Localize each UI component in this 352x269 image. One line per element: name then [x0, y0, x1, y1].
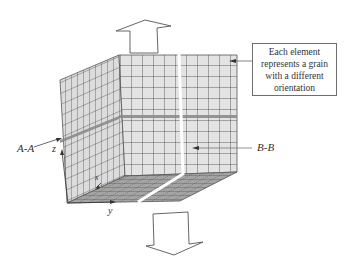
- callout-line-4: orientation: [253, 82, 336, 94]
- cube-diagram: [0, 0, 352, 269]
- axis-y-label: y: [108, 205, 112, 216]
- section-a-a-label: A-A: [17, 142, 34, 154]
- callout-line-2: represents a grain: [253, 58, 336, 70]
- callout-box: Each element represents a grain with a d…: [252, 43, 337, 96]
- section-b-b-label: B-B: [257, 141, 274, 153]
- arrow-up-icon: [116, 20, 171, 53]
- callout-line-1: Each element: [253, 46, 336, 58]
- callout-line-3: with a different: [253, 70, 336, 82]
- axis-x-label: x: [95, 173, 99, 182]
- a-a-pointer: [34, 138, 62, 147]
- arrow-down-icon: [146, 212, 203, 255]
- axis-z-label: z: [52, 143, 56, 154]
